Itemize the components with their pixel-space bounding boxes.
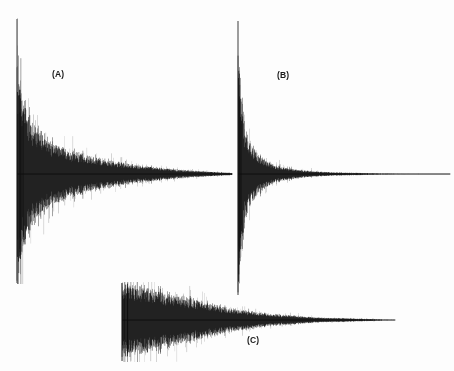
panel-b-label: (B) <box>277 70 289 80</box>
panel-c-label: (C) <box>247 335 259 345</box>
waveform-figure: (A) (B) (C) <box>0 0 454 371</box>
panel-a-label: (A) <box>52 69 64 79</box>
panel-a-waveform <box>14 18 234 284</box>
panel-c-waveform <box>118 282 418 362</box>
panel-a <box>14 18 234 284</box>
panel-b-waveform <box>234 20 454 296</box>
panel-b <box>234 20 454 296</box>
panel-c <box>118 282 418 362</box>
